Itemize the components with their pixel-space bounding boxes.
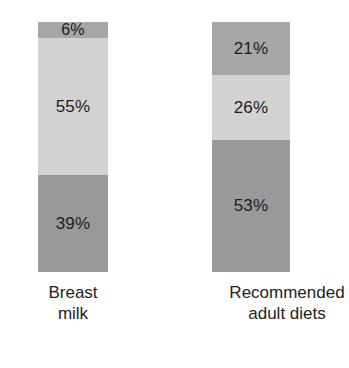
bar-segment-breast-milk-bottom[interactable]: 39% <box>38 175 108 272</box>
bar-segment-label: 6% <box>61 22 85 38</box>
bar-segment-label: 55% <box>56 98 91 115</box>
bar-segment-breast-milk-top[interactable]: 6% <box>38 22 108 38</box>
bar-segment-adult-diets-top[interactable]: 21% <box>212 22 290 75</box>
bar-stack-recommended-adult-diets: 21% 26% 53% <box>212 22 290 272</box>
bar-segment-label: 21% <box>234 40 269 57</box>
bar-column-breast-milk: 6% 55% 39% Breast milk <box>38 22 108 325</box>
bar-segment-breast-milk-middle[interactable]: 55% <box>38 38 108 175</box>
bar-segment-label: 39% <box>56 215 91 232</box>
bar-column-recommended-adult-diets: 21% 26% 53% Recommended adult diets <box>212 22 290 325</box>
bar-segment-label: 26% <box>234 99 269 116</box>
category-label-recommended-adult-diets: Recommended adult diets <box>212 282 349 325</box>
category-label-breast-milk: Breast milk <box>48 282 97 325</box>
bar-segment-label: 53% <box>234 197 269 214</box>
bar-stack-breast-milk: 6% 55% 39% <box>38 22 108 272</box>
bar-segment-adult-diets-bottom[interactable]: 53% <box>212 140 290 273</box>
bar-segment-adult-diets-middle[interactable]: 26% <box>212 75 290 140</box>
